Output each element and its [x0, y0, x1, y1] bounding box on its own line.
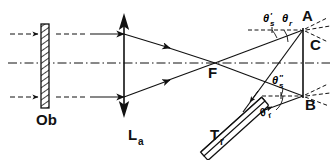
theta-r-upper-subscript: r [289, 19, 293, 28]
label-point-c: C [310, 36, 321, 53]
label-lens: L a [128, 126, 144, 147]
optics-diagram-figure: Ob L a F T r A C B θ ′ s θ [0, 0, 333, 160]
ray-direction-marker-a-tr [250, 91, 258, 102]
lens-label-sub: a [138, 136, 144, 147]
label-focus: F [208, 64, 217, 81]
label-point-b: B [305, 96, 316, 113]
point-b-label: B [305, 96, 316, 113]
theta-s-double-prime-subscript: s [279, 81, 284, 90]
rays-object-to-lens [56, 34, 124, 97]
point-c-label: C [310, 36, 321, 53]
angle-arc-theta-r-lower [276, 96, 283, 110]
lens-label-main: L [128, 126, 137, 143]
theta-r-upper-symbol: θ [282, 12, 288, 24]
incoming-rays-left [10, 34, 38, 97]
label-theta-r-upper: θ r [282, 12, 293, 28]
theta-s-prime-subscript: s [270, 19, 275, 28]
theta-s-prime-symbol: θ [263, 12, 269, 24]
point-a-label: A [302, 7, 313, 24]
focus-label: F [208, 64, 217, 81]
label-theta-s-double-prime: θ ″ s [272, 73, 284, 90]
theta-s-double-prime-symbol: θ [272, 74, 278, 86]
object-label: Ob [36, 111, 57, 128]
object-bar [41, 24, 49, 108]
lens-element [119, 13, 129, 118]
theta-r-lower-subscript: r [267, 110, 274, 120]
diagram-canvas: Ob L a F T r A C B θ ′ s θ [0, 0, 333, 160]
angle-arc-theta-s-prime [272, 27, 277, 38]
label-point-a: A [302, 7, 313, 24]
transducer-label-main: T [210, 126, 219, 143]
label-object: Ob [36, 111, 57, 128]
transducer-label-sub: r [220, 136, 224, 147]
label-theta-s-prime: θ ′ s [263, 11, 275, 28]
